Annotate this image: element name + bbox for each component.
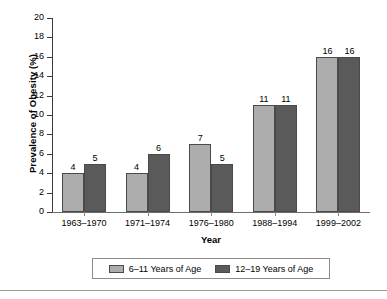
y-axis-tick-label: 18 bbox=[34, 31, 44, 41]
bar-value-label: 7 bbox=[190, 133, 210, 143]
bar-group: 75 bbox=[189, 18, 233, 212]
bar-group: 45 bbox=[62, 18, 106, 212]
y-axis-tick: 20 bbox=[47, 18, 52, 19]
y-axis-tick: 0 bbox=[47, 212, 52, 213]
x-axis-category-label: 1963–1970 bbox=[52, 218, 116, 228]
y-axis-tick-label: 12 bbox=[34, 90, 44, 100]
bar-value-label: 5 bbox=[85, 153, 105, 163]
x-axis-tick bbox=[148, 212, 149, 216]
bar-value-label: 11 bbox=[254, 94, 274, 104]
bar: 4 bbox=[126, 173, 148, 212]
legend-label: 6–11 Years of Age bbox=[129, 264, 201, 274]
legend-entry: 12–19 Years of Age bbox=[215, 264, 313, 274]
bar-value-label: 4 bbox=[127, 162, 147, 172]
dark-gray-swatch bbox=[215, 265, 230, 273]
bar-chart-figure: Prevalence of Obesity (%) 02468101214161… bbox=[0, 0, 387, 299]
x-axis-tick bbox=[338, 212, 339, 216]
x-axis-tick bbox=[211, 212, 212, 216]
y-axis-tick: 2 bbox=[47, 193, 52, 194]
x-axis-category-label: 1988–1994 bbox=[243, 218, 307, 228]
y-axis-tick-label: 8 bbox=[39, 128, 44, 138]
y-axis-line bbox=[52, 18, 53, 213]
legend-label: 12–19 Years of Age bbox=[235, 264, 313, 274]
bar-group: 46 bbox=[126, 18, 170, 212]
bar-value-label: 4 bbox=[63, 162, 83, 172]
y-axis-tick: 14 bbox=[47, 76, 52, 77]
bar: 4 bbox=[62, 173, 84, 212]
bar: 6 bbox=[148, 154, 170, 212]
bar: 16 bbox=[338, 57, 360, 212]
bar: 5 bbox=[211, 164, 233, 213]
bar-value-label: 5 bbox=[212, 153, 232, 163]
bar-value-label: 6 bbox=[149, 143, 169, 153]
plot-area: 02468101214161820 45467511111616 1963–19… bbox=[52, 18, 370, 212]
bar-group: 1616 bbox=[316, 18, 360, 212]
y-axis-tick-label: 14 bbox=[34, 70, 44, 80]
x-axis-tick bbox=[84, 212, 85, 216]
bar: 16 bbox=[316, 57, 338, 212]
bar-group: 1111 bbox=[253, 18, 297, 212]
y-axis-tick-label: 2 bbox=[39, 187, 44, 197]
light-gray-swatch bbox=[109, 265, 124, 273]
x-axis-title: Year bbox=[52, 234, 370, 245]
bar-value-label: 11 bbox=[276, 94, 296, 104]
y-axis-tick: 8 bbox=[47, 134, 52, 135]
y-axis-tick: 12 bbox=[47, 96, 52, 97]
y-axis-tick: 16 bbox=[47, 57, 52, 58]
x-axis-tick bbox=[275, 212, 276, 216]
y-axis-tick-label: 16 bbox=[34, 51, 44, 61]
y-axis-tick: 18 bbox=[47, 37, 52, 38]
bar: 7 bbox=[189, 144, 211, 212]
bar: 5 bbox=[84, 164, 106, 213]
chart-legend: 6–11 Years of Age12–19 Years of Age bbox=[92, 258, 330, 279]
bar: 11 bbox=[253, 105, 275, 212]
y-axis-tick-label: 10 bbox=[34, 109, 44, 119]
y-axis-tick-label: 20 bbox=[34, 12, 44, 22]
bar: 11 bbox=[275, 105, 297, 212]
bar-value-label: 16 bbox=[317, 46, 337, 56]
bottom-divider-rule bbox=[0, 290, 387, 291]
legend-entry: 6–11 Years of Age bbox=[109, 264, 201, 274]
y-axis-tick-label: 4 bbox=[39, 167, 44, 177]
y-axis-tick-label: 0 bbox=[39, 206, 44, 216]
y-axis-tick: 6 bbox=[47, 154, 52, 155]
y-axis-tick: 10 bbox=[47, 115, 52, 116]
bar-value-label: 16 bbox=[339, 46, 359, 56]
y-axis-tick: 4 bbox=[47, 173, 52, 174]
y-axis-tick-label: 6 bbox=[39, 148, 44, 158]
x-axis-category-label: 1976–1980 bbox=[179, 218, 243, 228]
x-axis-category-label: 1999–2002 bbox=[306, 218, 370, 228]
x-axis-category-label: 1971–1974 bbox=[116, 218, 180, 228]
